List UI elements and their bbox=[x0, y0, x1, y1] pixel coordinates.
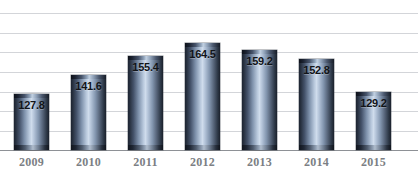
bar-top-cap bbox=[242, 50, 277, 54]
bar-cylinder: 159.2 bbox=[242, 50, 277, 150]
category-label-2012: 2012 bbox=[174, 155, 231, 170]
bar-value-label: 155.4 bbox=[128, 61, 163, 73]
bar-bottom-cap bbox=[356, 145, 391, 150]
plot-area: 127.8 2009 141.6 2010 155.4 2011 bbox=[0, 0, 418, 172]
bar-2012[interactable]: 164.5 bbox=[185, 43, 220, 150]
bar-bottom-cap bbox=[242, 145, 277, 150]
bar-top-cap bbox=[299, 59, 334, 63]
bar-2015[interactable]: 129.2 bbox=[356, 92, 391, 150]
bar-value-label: 141.6 bbox=[71, 80, 106, 92]
bar-bottom-cap bbox=[71, 145, 106, 150]
bar-value-label: 159.2 bbox=[242, 55, 277, 67]
bar-bottom-cap bbox=[185, 145, 220, 150]
bar-top-cap bbox=[128, 56, 163, 60]
category-label-2014: 2014 bbox=[288, 155, 345, 170]
bar-value-label: 152.8 bbox=[299, 64, 334, 76]
bar-2013[interactable]: 159.2 bbox=[242, 50, 277, 150]
bar-bottom-cap bbox=[14, 145, 49, 150]
category-label-2013: 2013 bbox=[231, 155, 288, 170]
bar-2009[interactable]: 127.8 bbox=[14, 94, 49, 150]
bar-cylinder: 155.4 bbox=[128, 56, 163, 150]
category-label-2015: 2015 bbox=[345, 155, 402, 170]
bar-top-cap bbox=[14, 94, 49, 98]
bar-top-cap bbox=[356, 92, 391, 96]
category-label-2011: 2011 bbox=[117, 155, 174, 170]
category-label-2009: 2009 bbox=[3, 155, 60, 170]
bar-chart: 127.8 2009 141.6 2010 155.4 2011 bbox=[0, 0, 418, 172]
bar-value-label: 129.2 bbox=[356, 97, 391, 109]
bar-value-label: 127.8 bbox=[14, 99, 49, 111]
bar-cylinder: 152.8 bbox=[299, 59, 334, 150]
bar-2014[interactable]: 152.8 bbox=[299, 59, 334, 150]
bar-cylinder: 127.8 bbox=[14, 94, 49, 150]
bar-bottom-cap bbox=[128, 145, 163, 150]
bar-2010[interactable]: 141.6 bbox=[71, 75, 106, 150]
bar-cylinder: 141.6 bbox=[71, 75, 106, 150]
bar-top-cap bbox=[185, 43, 220, 47]
bar-value-label: 164.5 bbox=[185, 48, 220, 60]
category-label-2010: 2010 bbox=[60, 155, 117, 170]
bar-cylinder: 164.5 bbox=[185, 43, 220, 150]
bar-cylinder: 129.2 bbox=[356, 92, 391, 150]
bar-2011[interactable]: 155.4 bbox=[128, 56, 163, 150]
bar-top-cap bbox=[71, 75, 106, 79]
bar-bottom-cap bbox=[299, 145, 334, 150]
